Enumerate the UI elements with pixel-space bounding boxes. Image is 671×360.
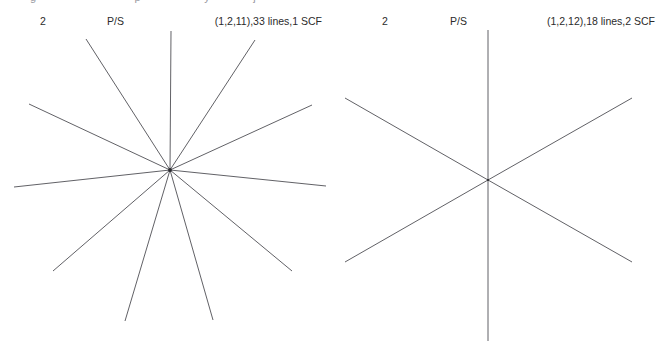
plot-center-point [168, 168, 172, 172]
plot-panel-left: 2 P/S (1,2,11),33 lines,1 SCF [0, 0, 336, 360]
ray-upright [488, 98, 632, 180]
ray-down-right-steep [170, 170, 213, 320]
ray-downright [488, 180, 632, 262]
ray-upleft [345, 98, 488, 180]
ray-downleft-shallow [53, 170, 170, 271]
plot-panel-right: 2 P/S (1,2,12),18 lines,2 SCF [336, 0, 671, 360]
ray-right-horizontal [170, 170, 326, 186]
starburst-plot-right [336, 0, 671, 360]
ray-down-left-steep [125, 170, 170, 321]
ray-up-vertical [170, 31, 171, 170]
plot-center-point [487, 179, 489, 181]
starburst-plot-left [0, 0, 336, 360]
ray-downleft [345, 180, 488, 262]
ray-left-horizontal [14, 170, 170, 187]
ray-downright-shallow [170, 170, 292, 271]
